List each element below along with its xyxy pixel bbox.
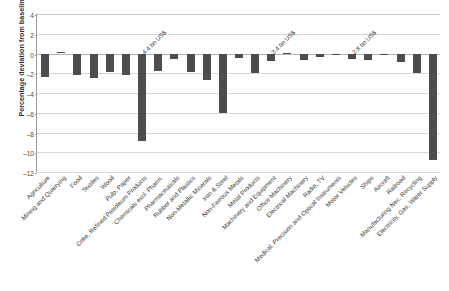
- x-axis-label: Textiles: [80, 174, 100, 194]
- y-tick-label: 4: [30, 12, 34, 19]
- bar: [57, 52, 65, 53]
- y-tick-label: –10: [23, 150, 34, 157]
- bar: [170, 54, 178, 59]
- bar-slot: [37, 14, 53, 172]
- bar: [380, 54, 388, 55]
- bar: [90, 54, 98, 78]
- bar-slot: [328, 14, 344, 172]
- bar-slot: [344, 14, 360, 172]
- bar-slot: [102, 14, 118, 172]
- bar-slot: [376, 14, 392, 172]
- bar-slot: [166, 14, 182, 172]
- gridline: –12: [37, 172, 440, 173]
- y-tick-label: 2: [30, 31, 34, 38]
- bar-slot: [134, 14, 150, 172]
- y-axis-title: Percentage deviation from baseline: [18, 0, 26, 136]
- bar: [300, 54, 308, 60]
- bar: [187, 54, 195, 72]
- y-tick-label: –2: [27, 71, 34, 78]
- bar: [219, 54, 227, 113]
- y-tick-label: 0: [30, 51, 34, 58]
- bar: [73, 54, 81, 76]
- bar-slot: [118, 14, 134, 172]
- bar: [154, 54, 162, 72]
- bar: [41, 54, 49, 78]
- y-tick-label: –8: [27, 130, 34, 137]
- plot-area: 420–2–4–6–8–10–12 –4.4 bn US$–3.4 bn US$…: [36, 14, 440, 172]
- bar-chart: Percentage deviation from baseline 420–2…: [0, 0, 449, 291]
- bar-slot: [409, 14, 425, 172]
- bar: [235, 54, 243, 58]
- bar-slot: [199, 14, 215, 172]
- bar-slot: [312, 14, 328, 172]
- y-tick-label: –4: [27, 91, 34, 98]
- bar: [251, 54, 259, 73]
- bars-layer: [37, 14, 440, 172]
- bar-slot: [296, 14, 312, 172]
- bar: [122, 54, 130, 76]
- bar: [283, 53, 291, 54]
- bar: [106, 54, 114, 72]
- bar-slot: [85, 14, 101, 172]
- bar: [429, 54, 437, 161]
- y-tick-label: –6: [27, 110, 34, 117]
- bar-slot: [425, 14, 441, 172]
- bar-slot: [53, 14, 69, 172]
- bar: [203, 54, 211, 80]
- bar: [413, 54, 421, 73]
- bar: [364, 54, 372, 60]
- bar: [397, 54, 405, 63]
- bar: [316, 54, 324, 58]
- bar: [138, 54, 146, 142]
- bar-slot: [393, 14, 409, 172]
- bar-slot: [215, 14, 231, 172]
- x-axis-labels: AgricultureMining and QuarryingFoodTexti…: [36, 174, 440, 291]
- bar-slot: [231, 14, 247, 172]
- y-tick-label: –12: [23, 170, 34, 177]
- bar-slot: [247, 14, 263, 172]
- bar: [332, 54, 340, 55]
- bar-slot: [263, 14, 279, 172]
- bar-slot: [182, 14, 198, 172]
- bar-slot: [69, 14, 85, 172]
